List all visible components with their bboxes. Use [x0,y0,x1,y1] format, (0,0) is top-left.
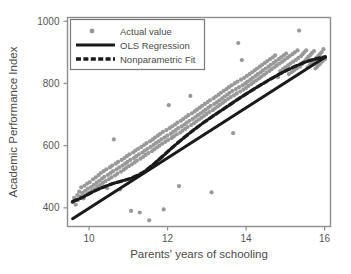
scatter-point [273,53,277,57]
y-tick-label: 800 [43,78,60,89]
scatter-point [321,47,325,51]
scatter-plot: 10121416 4006008001000 Parents' years of… [0,0,351,274]
y-tick-label: 600 [43,140,60,151]
chart-legend: Actual value OLS Regression Nonparametri… [71,20,205,70]
legend-label-ols-regression: OLS Regression [120,40,190,51]
scatter-point [147,218,151,222]
scatter-point [88,180,92,184]
y-axis-title: Academic Performance Index [7,46,19,197]
scatter-point [167,103,171,107]
scatter-point [109,175,113,179]
legend-label-nonparametric-fit: Nonparametric Fit [120,54,196,65]
fit-line-ols-regression [73,57,326,219]
y-axis-ticks: 4006008001000 [37,16,67,214]
legend-marker-actual-value-icon [90,29,95,34]
x-tick-label: 10 [84,233,96,244]
scatter-point [297,28,301,32]
scatter-point [129,209,133,213]
scatter-point [146,151,150,155]
scatter-point [240,58,244,62]
scatter-point [295,48,299,52]
y-tick-label: 1000 [37,16,60,27]
x-axis-ticks: 10121416 [84,227,331,244]
scatter-point [165,134,169,138]
scatter-point [209,190,213,194]
scatter-point [112,137,116,141]
scatter-point [138,210,142,214]
x-tick-label: 14 [241,233,253,244]
scatter-point [284,51,288,55]
scatter-point [111,169,115,173]
legend-label-actual-value: Actual value [120,26,172,37]
scatter-point [231,131,235,135]
y-tick-label: 400 [43,202,60,213]
x-tick-label: 12 [162,233,174,244]
scatter-point [235,91,239,95]
scatter-point [312,49,316,53]
scatter-point [188,94,192,98]
scatter-point [236,41,240,45]
scatter-point [304,48,308,52]
x-axis-title: Parents' years of schooling [130,248,268,260]
chart-figure: 10121416 4006008001000 Parents' years of… [0,0,351,274]
fit-lines-layer [73,57,326,219]
scatter-point [177,184,181,188]
scatter-point [162,207,166,211]
scatter-point [74,203,78,207]
scatter-point [115,172,119,176]
x-tick-label: 16 [319,233,331,244]
